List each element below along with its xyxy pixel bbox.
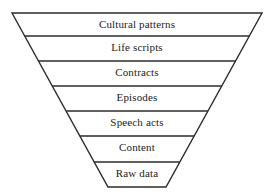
funnel-band-label: Contracts bbox=[0, 67, 274, 78]
funnel-diagram-canvas: Cultural patternsLife scriptsContractsEp… bbox=[0, 0, 274, 196]
funnel-band-label: Content bbox=[0, 142, 274, 153]
funnel-band-label: Speech acts bbox=[0, 117, 274, 128]
funnel-band-label: Episodes bbox=[0, 92, 274, 103]
funnel-band-label: Raw data bbox=[0, 168, 274, 179]
funnel-band-label: Cultural patterns bbox=[0, 19, 274, 30]
funnel-band-label: Life scripts bbox=[0, 42, 274, 53]
